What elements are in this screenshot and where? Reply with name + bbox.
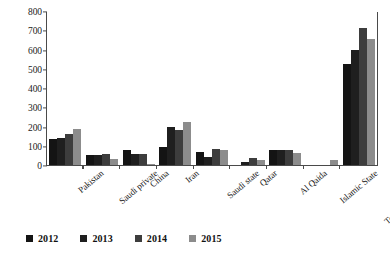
- bar: [330, 160, 338, 165]
- bar-group: [120, 12, 157, 165]
- legend-swatch-icon: [189, 235, 196, 242]
- bar-group: [157, 12, 194, 165]
- bar-group: [47, 12, 84, 165]
- x-axis-label: Pakistan: [76, 168, 105, 195]
- legend-swatch-icon: [135, 235, 142, 242]
- legend-label: 2013: [92, 233, 112, 244]
- bar: [257, 160, 265, 165]
- bar: [147, 164, 155, 165]
- x-axis-label: Qatar: [258, 168, 280, 188]
- bar: [94, 155, 102, 165]
- x-axis-label: Total external funding: [382, 168, 390, 226]
- bar: [220, 150, 228, 165]
- plot-area: 0100200300400500600700800: [46, 12, 378, 166]
- bar: [167, 127, 175, 165]
- bar: [351, 50, 359, 165]
- legend-item[interactable]: 2014: [135, 233, 167, 244]
- legend-label: 2014: [147, 233, 167, 244]
- chart-figure: 0100200300400500600700800 PakistanSaudi …: [0, 0, 390, 260]
- bar: [123, 150, 131, 165]
- legend-swatch-icon: [80, 235, 87, 242]
- legend-label: 2012: [38, 233, 58, 244]
- bar-group: [84, 12, 121, 165]
- bar: [49, 139, 57, 165]
- bar: [277, 150, 285, 165]
- bar-group: [340, 12, 377, 165]
- y-axis-tick-mark: [43, 165, 47, 166]
- x-axis-label: Al Qaida: [298, 168, 329, 196]
- bar: [159, 147, 167, 165]
- bar-group: [230, 12, 267, 165]
- bar: [285, 150, 293, 165]
- bar: [204, 157, 212, 165]
- bar-group: [194, 12, 231, 165]
- legend-item[interactable]: 2013: [80, 233, 112, 244]
- bar: [241, 162, 249, 165]
- bar: [249, 158, 257, 165]
- chart-legend: 2012201320142015: [26, 233, 222, 244]
- bar: [73, 129, 81, 165]
- bar: [183, 122, 191, 165]
- bar-groups: [47, 12, 377, 165]
- bar: [212, 149, 220, 165]
- bar: [139, 154, 147, 165]
- x-axis-labels: PakistanSaudi privateChinaIranSaudi stat…: [46, 168, 378, 230]
- bar: [293, 153, 301, 166]
- x-axis-label: Saudi state: [225, 168, 261, 201]
- bar: [65, 134, 73, 165]
- bar: [131, 154, 139, 165]
- bar: [269, 150, 277, 165]
- legend-item[interactable]: 2015: [189, 233, 221, 244]
- legend-item[interactable]: 2012: [26, 233, 58, 244]
- bar: [57, 138, 65, 165]
- bar: [343, 64, 351, 165]
- bar-group: [304, 12, 341, 165]
- legend-label: 2015: [201, 233, 221, 244]
- bar: [359, 28, 367, 165]
- bar: [196, 152, 204, 165]
- bar: [110, 159, 118, 165]
- bar: [367, 39, 375, 165]
- legend-swatch-icon: [26, 235, 33, 242]
- x-axis-label: Islamic State: [338, 168, 380, 205]
- bar-group: [267, 12, 304, 165]
- bar: [86, 155, 94, 165]
- bar: [175, 130, 183, 165]
- x-axis-label: Iran: [183, 168, 200, 185]
- bar: [102, 154, 110, 165]
